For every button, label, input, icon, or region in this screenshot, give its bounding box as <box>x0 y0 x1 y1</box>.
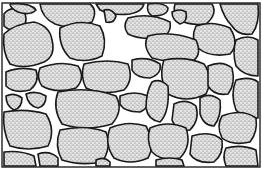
grain <box>208 63 233 94</box>
grain <box>82 61 130 93</box>
grain <box>60 22 105 60</box>
grain <box>38 153 58 166</box>
grain <box>108 123 152 162</box>
grain <box>146 81 168 122</box>
grain <box>4 22 53 67</box>
grain <box>96 158 110 166</box>
grain <box>132 59 160 78</box>
grain <box>4 110 52 149</box>
stippled-grain-illustration <box>0 0 262 175</box>
grain <box>219 112 256 143</box>
grain <box>6 68 37 91</box>
grain <box>200 95 220 126</box>
grain <box>224 146 258 166</box>
grain <box>148 4 169 17</box>
grain <box>148 124 188 159</box>
grain <box>190 134 222 163</box>
grain <box>146 34 199 62</box>
grain <box>120 93 148 112</box>
grain <box>156 158 184 166</box>
grain <box>38 63 81 90</box>
grain <box>56 90 119 128</box>
